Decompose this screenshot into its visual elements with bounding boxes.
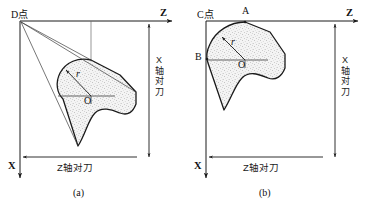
- panel-a-caption: (a): [73, 187, 84, 198]
- panel-b-radius-label: r: [231, 36, 235, 47]
- panel-b-x-axis-label: X: [194, 160, 202, 171]
- panel-a-z-axis-label: Z: [160, 7, 167, 18]
- panel-a-tool-insert: [57, 59, 136, 146]
- panel-a-radius-label: r: [76, 68, 80, 79]
- panel-b-x-dimension-label: X轴对刀: [339, 55, 351, 97]
- panel-a-origin-label: D点: [11, 6, 28, 21]
- panel-a-ray-to-apex: [21, 22, 91, 60]
- panel-b-tool-insert: [207, 22, 285, 110]
- panel-a-x-dimension-label: X轴对刀: [153, 55, 165, 97]
- panel-b-center-label: O: [238, 59, 245, 70]
- panel-b: [206, 21, 358, 178]
- panel-b-point-a-marker: [244, 21, 247, 24]
- panel-a-z-dimension-label: Z轴对刀: [57, 160, 93, 174]
- tool-setting-diagram: [0, 0, 374, 210]
- panel-b-origin-label: C点: [197, 6, 214, 21]
- panel-b-point-b-marker: [206, 58, 209, 61]
- panel-a-center-label: O: [84, 95, 91, 106]
- panel-b-z-dimension-label: Z轴对刀: [243, 160, 279, 174]
- panel-b-z-axis-label: Z: [346, 7, 353, 18]
- panel-b-point-b-label: B: [195, 51, 202, 62]
- panel-a-x-axis-label: X: [8, 160, 16, 171]
- panel-a: [20, 21, 172, 178]
- panel-b-caption: (b): [259, 187, 271, 198]
- panel-b-point-a-label: A: [242, 5, 249, 16]
